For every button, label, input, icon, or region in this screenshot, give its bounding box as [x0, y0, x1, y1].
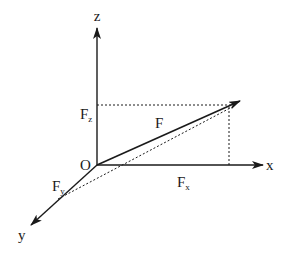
x-axis-label: x — [266, 157, 274, 173]
z-axis-label: z — [94, 8, 101, 24]
origin-label: O — [80, 157, 91, 173]
Fx-main: F — [177, 174, 185, 190]
y-axis-label: y — [18, 227, 26, 243]
Fy-subscript: y — [60, 186, 65, 196]
Fy-main: F — [52, 178, 60, 194]
force-vector-F — [97, 101, 240, 165]
component-Fx-label: Fx — [177, 174, 190, 192]
vector-F-label: F — [155, 115, 163, 131]
Fx-subscript: x — [185, 182, 190, 192]
force-vector-diagram: z x y O F Fz Fx Fy — [0, 0, 292, 256]
Fz-main: F — [80, 106, 88, 122]
component-Fy-label: Fy — [52, 178, 65, 196]
Fz-subscript: z — [88, 114, 92, 124]
component-Fz-label: Fz — [80, 106, 92, 124]
